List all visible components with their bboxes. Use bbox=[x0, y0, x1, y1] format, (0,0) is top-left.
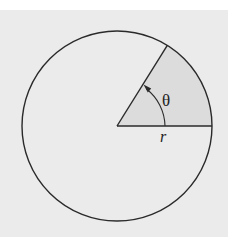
radius-label-r: r bbox=[160, 128, 167, 145]
angle-label-theta: θ bbox=[162, 91, 170, 110]
diagram-canvas: θ r bbox=[0, 0, 228, 237]
circle-sector-figure: θ r bbox=[0, 0, 228, 237]
